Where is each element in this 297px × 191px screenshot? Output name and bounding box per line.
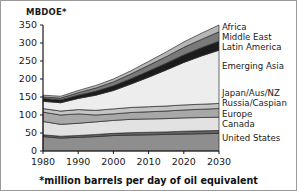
y-tick-label: 200 — [19, 73, 37, 84]
x-tick-label: 2010 — [137, 156, 161, 167]
x-tick-label: 2030 — [207, 156, 231, 167]
y-tick-label: 0 — [31, 145, 37, 156]
series-label-canada: Canada — [222, 119, 255, 129]
series-label-russia-caspian: Russia/Caspian — [222, 98, 287, 108]
stacked-area-plot: 050100150200250300350 198019902000201020… — [1, 1, 297, 191]
y-tick-label: 350 — [19, 19, 37, 30]
series-label-emerging-asia: Emerging Asia — [222, 61, 284, 71]
y-tick-label: 300 — [19, 37, 37, 48]
series-label-japan-aus-nz: Japan/Aus/NZ — [221, 88, 280, 98]
y-tick-labels-group: 050100150200250300350 — [19, 19, 37, 156]
series-label-united-states: United States — [222, 133, 281, 143]
series-labels-group: AfricaMiddle EastLatin AmericaEmerging A… — [221, 22, 287, 143]
series-label-africa: Africa — [222, 22, 247, 32]
y-tick-label: 50 — [25, 127, 37, 138]
x-tick-labels-group: 198019902000201020202030 — [31, 156, 231, 167]
x-tick-label: 1980 — [31, 156, 55, 167]
series-label-middle-east: Middle East — [222, 32, 272, 42]
chart-figure-frame: MBDOE* 050100150200250300350 19801990200… — [0, 0, 297, 191]
y-tick-label: 150 — [19, 91, 37, 102]
x-tick-label: 1990 — [66, 156, 90, 167]
series-label-europe: Europe — [222, 109, 252, 119]
footnote-text: *million barrels per day of oil equivale… — [1, 175, 296, 186]
y-tick-label: 250 — [19, 55, 37, 66]
y-tick-label: 100 — [19, 109, 37, 120]
series-label-latin-america: Latin America — [222, 42, 281, 52]
x-tick-label: 2000 — [101, 156, 125, 167]
x-tick-label: 2020 — [172, 156, 196, 167]
chart-svg: 050100150200250300350 198019902000201020… — [1, 1, 297, 191]
area-bands-group — [43, 25, 219, 151]
